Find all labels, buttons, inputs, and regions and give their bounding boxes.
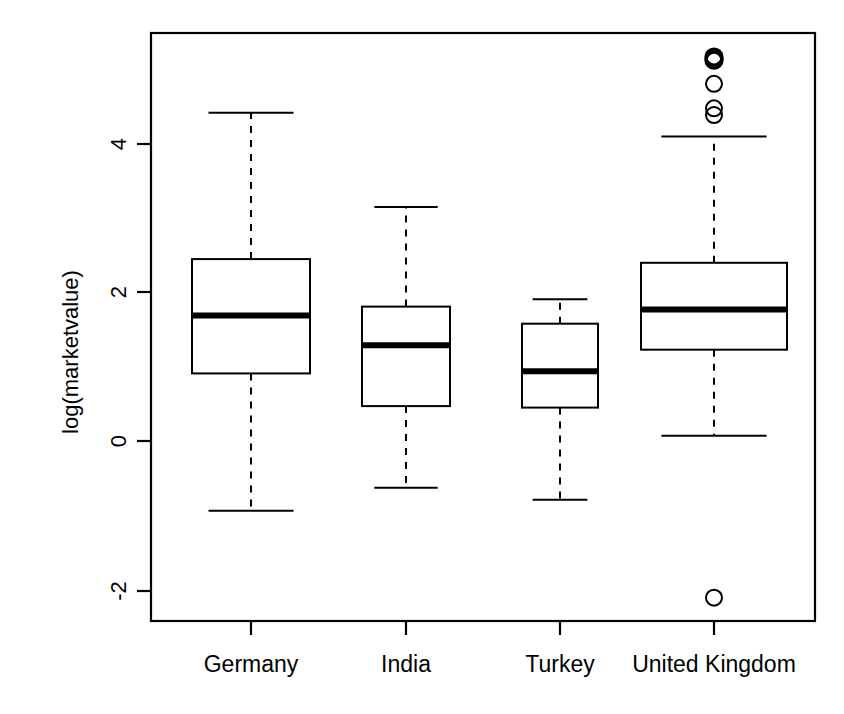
x-category-label-united-kingdom: United Kingdom <box>632 651 796 677</box>
y-tick-label-0: 0 <box>106 435 131 447</box>
boxes-layer <box>192 49 787 606</box>
outlier-point <box>706 590 722 606</box>
box-group-germany <box>192 113 310 511</box>
x-category-label-turkey: Turkey <box>525 651 595 677</box>
box-iqr <box>641 263 787 350</box>
box-group-india <box>362 207 450 488</box>
boxplot-canvas: -2 0 2 4 log(marketvalue) Germany India … <box>0 0 844 714</box>
outlier-point <box>706 76 722 92</box>
x-category-label-germany: Germany <box>204 651 299 677</box>
y-tick-label-2: 2 <box>106 286 131 298</box>
y-axis: -2 0 2 4 log(marketvalue) <box>58 138 151 601</box>
x-category-label-india: India <box>381 651 431 677</box>
box-group-turkey <box>522 299 598 499</box>
x-axis: Germany India Turkey United Kingdom <box>204 621 796 677</box>
y-axis-title: log(marketvalue) <box>58 270 83 434</box>
y-tick-label--2: -2 <box>106 581 131 601</box>
y-tick-label-4: 4 <box>106 138 131 150</box>
box-iqr <box>362 307 450 406</box>
boxplot-figure: -2 0 2 4 log(marketvalue) Germany India … <box>0 0 844 714</box>
box-iqr <box>522 324 598 408</box>
box-group-united-kingdom <box>641 49 787 606</box>
